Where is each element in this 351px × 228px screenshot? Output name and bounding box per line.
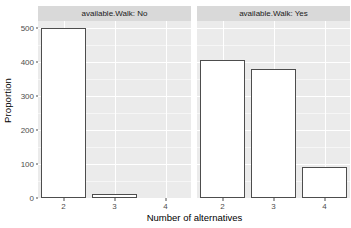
x-axis: 234234: [38, 198, 350, 212]
gridline-major-vertical: [166, 21, 167, 198]
plot-area: [197, 21, 350, 198]
x-axis-tick-label: 4: [322, 202, 326, 211]
bar: [302, 167, 348, 198]
chart-container: Proportion 0100200300400500 available.Wa…: [0, 0, 351, 228]
x-axis-panel: 234: [197, 198, 350, 212]
x-axis-tick-mark: [324, 198, 325, 201]
x-axis-tick-mark: [63, 198, 64, 201]
facet-strip-label: available.Walk: No: [38, 6, 191, 21]
x-axis-tick-label: 2: [220, 202, 224, 211]
y-axis-tick-label: 400: [21, 57, 34, 66]
x-axis-panel: 234: [38, 198, 191, 212]
y-axis-title: Proportion: [0, 0, 14, 200]
facet-strip-text: available.Walk: No: [82, 9, 148, 18]
facet-strip-label: available.Walk: Yes: [197, 6, 350, 21]
facet-panels: available.Walk: Noavailable.Walk: Yes: [38, 6, 350, 198]
y-axis-title-text: Proportion: [2, 78, 13, 123]
x-axis-tick-label: 3: [271, 202, 275, 211]
bar: [251, 69, 297, 198]
x-axis-tick-label: 3: [112, 202, 116, 211]
facet-strip-text: available.Walk: Yes: [239, 9, 308, 18]
x-axis-title-text: Number of alternatives: [147, 212, 243, 223]
y-axis-tick-label: 0: [30, 194, 34, 203]
x-axis-tick-label: 4: [163, 202, 167, 211]
x-axis-tick-label: 2: [61, 202, 65, 211]
bar: [200, 60, 246, 198]
x-axis-title: Number of alternatives: [38, 212, 351, 223]
y-axis-tick-label: 300: [21, 91, 34, 100]
y-axis-tick-label: 500: [21, 23, 34, 32]
facet-panel: available.Walk: Yes: [197, 6, 350, 198]
bar: [41, 28, 87, 198]
y-axis-tick-label: 100: [21, 159, 34, 168]
x-axis-tick-mark: [273, 198, 274, 201]
plot-area: [38, 21, 191, 198]
gridline-major-vertical: [115, 21, 116, 198]
x-axis-tick-mark: [165, 198, 166, 201]
x-axis-tick-mark: [222, 198, 223, 201]
facet-panel: available.Walk: No: [38, 6, 191, 198]
y-axis: 0100200300400500: [14, 0, 38, 228]
x-axis-tick-mark: [114, 198, 115, 201]
y-axis-tick-label: 200: [21, 125, 34, 134]
